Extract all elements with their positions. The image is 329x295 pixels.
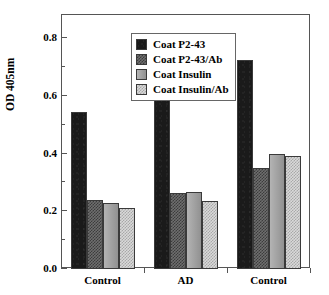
bar-chart-figure: OD 405nm Coat P2-43 Coat P2-43/Ab Coat I… [0, 0, 329, 295]
legend-item-label: Coat P2-43 [153, 39, 205, 50]
x-group-label: Control [250, 274, 286, 286]
y-tick-label: 0.6 [21, 89, 57, 100]
y-tick-mark-minor [61, 239, 65, 240]
bar [269, 154, 285, 269]
y-tick-mark-minor [61, 181, 65, 182]
y-axis-title: OD 405nm [2, 14, 18, 154]
bar [237, 60, 253, 269]
legend-swatch-icon [136, 54, 147, 65]
legend-item: Coat Insulin/Ab [136, 82, 229, 97]
bar [186, 192, 202, 269]
y-tick-mark-minor [61, 66, 65, 67]
y-tick-label: 0.8 [21, 32, 57, 43]
legend-swatch-icon [136, 39, 147, 50]
bar [103, 203, 119, 269]
legend-item: Coat P2-43/Ab [136, 52, 229, 67]
legend-swatch-icon [136, 84, 147, 95]
y-tick-mark [61, 268, 67, 269]
x-tick-mark [310, 268, 311, 273]
bar [87, 200, 103, 269]
bar [253, 168, 269, 269]
legend-item: Coat P2-43 [136, 37, 229, 52]
y-tick-label: 0.2 [21, 205, 57, 216]
x-group-label: Control [84, 274, 120, 286]
legend-item-label: Coat Insulin [153, 69, 211, 80]
legend-item-label: Coat Insulin/Ab [153, 84, 229, 95]
y-tick-mark [61, 37, 67, 38]
bar [154, 99, 170, 269]
y-tick-label: 0.4 [21, 147, 57, 158]
legend-item: Coat Insulin [136, 67, 229, 82]
bar [170, 193, 186, 269]
y-tick-mark [61, 153, 67, 154]
bar [202, 201, 218, 269]
bar [119, 208, 135, 269]
chart-legend: Coat P2-43 Coat P2-43/Ab Coat Insulin Co… [131, 33, 236, 101]
x-tick-mark [144, 268, 145, 273]
legend-item-label: Coat P2-43/Ab [153, 54, 222, 65]
y-tick-mark [61, 210, 67, 211]
bar [285, 156, 301, 269]
bar [71, 112, 87, 269]
legend-swatch-icon [136, 69, 147, 80]
plot-area: Coat P2-43 Coat P2-43/Ab Coat Insulin Co… [61, 14, 310, 268]
y-tick-label: 0.0 [21, 263, 57, 274]
x-tick-mark [227, 268, 228, 273]
y-tick-mark-minor [61, 124, 65, 125]
x-group-label: AD [178, 274, 194, 286]
y-tick-mark [61, 95, 67, 96]
